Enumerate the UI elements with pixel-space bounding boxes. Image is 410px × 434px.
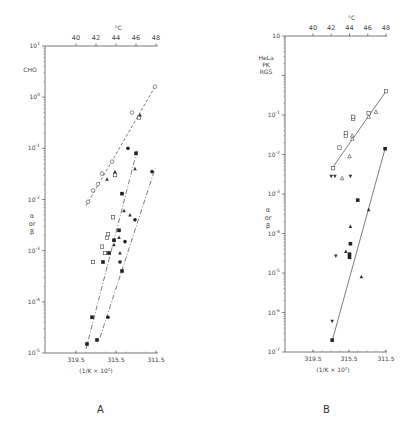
data-point — [374, 110, 378, 114]
bottom-tick-label: 319.5 — [304, 355, 321, 362]
data-point — [100, 245, 103, 248]
data-point — [338, 146, 341, 149]
bottom-tick-label: 319.5 — [67, 356, 84, 363]
y-axis-label: β — [266, 222, 270, 230]
data-point — [348, 154, 352, 158]
data-point — [128, 213, 132, 217]
data-point — [91, 260, 94, 263]
data-point — [349, 225, 353, 229]
figure: 10110010-110-210-310-410-5°C404244464831… — [0, 0, 410, 434]
data-point — [330, 320, 334, 324]
figure-canvas: 10110010-110-210-310-410-5°C404244464831… — [0, 0, 410, 434]
data-point — [111, 216, 114, 219]
data-point — [113, 170, 117, 174]
panel-label-b: B — [323, 404, 330, 415]
data-point — [329, 175, 333, 179]
data-point — [340, 176, 344, 180]
data-point — [334, 254, 338, 257]
fit-line — [86, 151, 137, 349]
data-point — [120, 192, 124, 196]
data-point — [123, 240, 127, 244]
data-point — [112, 238, 116, 242]
data-point — [96, 182, 100, 186]
data-point — [133, 218, 137, 222]
data-point — [367, 208, 371, 212]
data-point — [85, 342, 89, 346]
x-axis-label: (1/K × 10⁵) — [79, 367, 112, 374]
cell-line-label: PK — [262, 61, 271, 68]
bottom-tick-label: 311.5 — [147, 356, 164, 363]
data-point — [153, 85, 157, 89]
top-tick-label: 44 — [345, 24, 353, 32]
chart-panel-b — [282, 34, 388, 353]
data-point — [333, 175, 337, 179]
top-tick-label: 42 — [92, 34, 100, 42]
y-axis-label: or — [29, 220, 36, 228]
y-tick-label: 10-2 — [268, 150, 280, 158]
cell-line-label: RGS — [260, 68, 273, 75]
y-tick-label: 10-5 — [28, 348, 40, 356]
data-point — [351, 115, 354, 118]
data-point — [120, 269, 124, 273]
top-tick-label: 40 — [72, 34, 80, 42]
data-point — [105, 177, 109, 181]
y-tick-label: 100 — [29, 92, 40, 100]
top-axis-unit: °C — [348, 14, 355, 21]
data-point — [106, 315, 110, 319]
data-point — [113, 173, 116, 176]
data-point — [330, 338, 334, 342]
data-point — [86, 200, 90, 204]
data-point — [130, 111, 134, 115]
data-point — [122, 209, 126, 213]
y-tick-label: 10 — [272, 32, 280, 39]
bottom-tick-label: 311.5 — [377, 355, 394, 362]
data-point — [133, 167, 137, 171]
data-point — [344, 250, 348, 254]
y-tick-label: 10-3 — [28, 246, 40, 254]
top-tick-label: 44 — [112, 34, 120, 42]
y-tick-label: 10-5 — [268, 268, 280, 276]
data-point — [384, 90, 387, 93]
data-point — [107, 251, 111, 255]
top-axis-unit: °C — [114, 24, 121, 31]
data-point — [349, 242, 353, 246]
fit-line — [332, 91, 386, 168]
y-axis-label: or — [265, 214, 272, 222]
fit-line — [86, 87, 155, 206]
top-tick-label: 46 — [132, 34, 140, 42]
data-point — [100, 172, 104, 176]
cell-line-label: CHO — [23, 66, 37, 73]
top-tick-label: 40 — [309, 24, 317, 32]
data-point — [350, 134, 354, 138]
data-point — [117, 236, 121, 240]
data-point — [344, 131, 347, 134]
y-tick-label: 101 — [29, 41, 40, 49]
data-point — [106, 232, 109, 235]
data-point — [348, 255, 352, 259]
y-tick-label: 10-7 — [268, 347, 280, 355]
data-point — [360, 275, 364, 279]
bottom-tick-label: 315.5 — [340, 355, 357, 362]
data-point — [118, 251, 122, 255]
y-axis-label: β — [30, 228, 34, 236]
y-tick-label: 10-6 — [268, 308, 280, 316]
data-point — [150, 170, 154, 174]
data-point — [95, 338, 99, 342]
data-point — [90, 315, 94, 319]
y-axis-label: α — [30, 212, 34, 220]
y-tick-label: 10-4 — [28, 297, 40, 305]
data-point — [349, 175, 353, 179]
chart-panel-a — [42, 44, 158, 354]
data-point — [101, 260, 105, 264]
y-tick-label: 10-2 — [28, 195, 40, 203]
data-point — [103, 251, 106, 254]
fit-line — [332, 149, 385, 341]
data-point — [383, 147, 387, 151]
data-point — [356, 198, 360, 202]
data-point — [348, 252, 352, 256]
data-point — [118, 260, 122, 264]
data-point — [105, 236, 108, 239]
data-point — [134, 151, 138, 155]
y-tick-label: 10-1 — [28, 143, 40, 151]
data-point — [331, 166, 334, 169]
